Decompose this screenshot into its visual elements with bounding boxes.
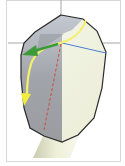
bone-cross-section-diagram [0,0,125,166]
diagram-frame [0,0,125,166]
